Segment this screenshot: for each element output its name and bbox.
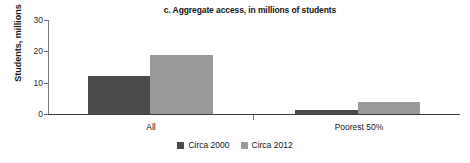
y-tick-label-20: 20	[34, 46, 43, 56]
legend-label-circa-2000: Circa 2000	[188, 140, 229, 150]
y-tick-mark-10	[44, 83, 48, 84]
category-label-poorest: Poorest 50%	[335, 122, 384, 132]
y-tick-label-30: 30	[34, 15, 43, 25]
y-tick-mark-20	[44, 51, 48, 52]
y-axis-line	[48, 20, 49, 115]
category-label-all: All	[146, 122, 155, 132]
legend-swatch-icon-circa-2012	[241, 142, 248, 149]
x-axis-line	[48, 114, 460, 115]
legend-item-circa-2000: Circa 2000	[177, 140, 229, 150]
y-tick-label-10: 10	[34, 78, 43, 88]
chart-legend: Circa 2000 Circa 2012	[0, 140, 470, 150]
legend-swatch-icon-circa-2000	[177, 142, 184, 149]
legend-item-circa-2012: Circa 2012	[241, 140, 293, 150]
plot-area: 30 20 10 0 All Poorest 50%	[48, 20, 460, 115]
y-axis-title: Students, millions	[13, 0, 23, 93]
bar-all-circa-2000	[88, 76, 150, 114]
chart-title: c. Aggregate access, in millions of stud…	[60, 5, 440, 15]
y-tick-mark-30	[44, 20, 48, 21]
bar-poorest-circa-2012	[358, 102, 420, 115]
chart-figure: c. Aggregate access, in millions of stud…	[0, 0, 470, 163]
legend-label-circa-2012: Circa 2012	[252, 140, 293, 150]
y-tick-mark-0	[44, 114, 48, 115]
y-tick-label-0: 0	[38, 109, 43, 119]
bar-poorest-circa-2000	[295, 110, 358, 114]
category-divider	[253, 115, 254, 120]
bar-all-circa-2012	[150, 55, 213, 115]
